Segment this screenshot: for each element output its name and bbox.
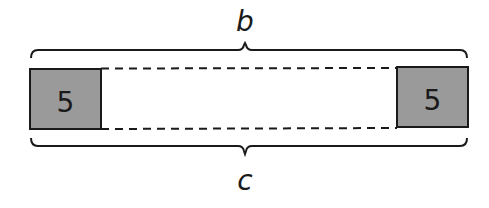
bottom-label-c: c [237, 164, 253, 197]
right-box-value: 5 [424, 84, 442, 117]
bottom-brace [31, 138, 467, 154]
top-brace [31, 43, 467, 58]
top-label-b: b [236, 5, 254, 38]
dashed-line-top [101, 68, 397, 69]
left-box-value: 5 [57, 86, 75, 119]
bar-model-diagram: b 5 5 c [0, 0, 489, 208]
dashed-line-bottom [101, 128, 397, 129]
